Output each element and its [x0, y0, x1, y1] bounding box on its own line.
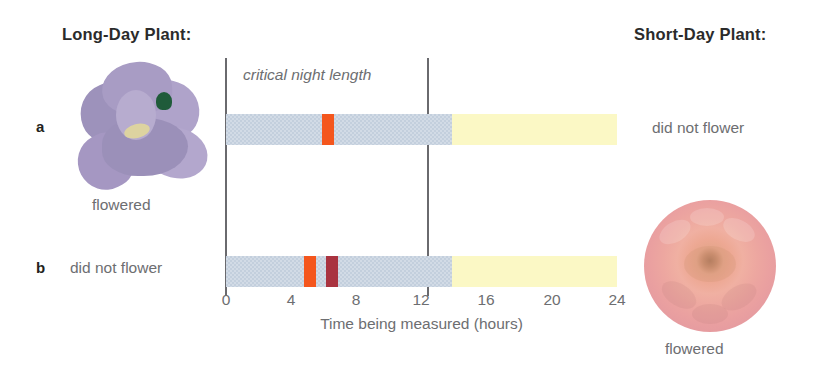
x-tick-24: 24 [602, 291, 632, 309]
x-tick-0: 0 [211, 291, 241, 309]
timeline-bar-a [226, 114, 617, 145]
x-tick-20: 20 [537, 291, 567, 309]
chrysanthemum-petal-shadow [692, 304, 728, 324]
day-segment-a [452, 114, 617, 145]
critical-night-length-label: critical night length [243, 66, 371, 84]
row-b-left-result: did not flower [70, 259, 162, 277]
light-flash-b-2 [326, 256, 338, 287]
row-letter-b: b [36, 259, 45, 276]
chrysanthemum-flower-image [644, 200, 776, 332]
x-tick-12: 12 [406, 291, 436, 309]
chrysanthemum-caption: flowered [665, 340, 724, 358]
light-flash-a-1 [322, 114, 334, 145]
x-axis-title: Time being measured (hours) [226, 315, 617, 333]
figure-photoperiodism-diagram: Long-Day Plant: Short-Day Plant: a b flo… [0, 0, 831, 373]
day-segment-b [452, 256, 617, 287]
short-day-plant-heading: Short-Day Plant: [634, 25, 766, 44]
night-segment-b [226, 256, 452, 287]
chrysanthemum-center [684, 246, 736, 282]
long-day-plant-heading: Long-Day Plant: [62, 25, 192, 44]
iris-caption: flowered [92, 196, 151, 214]
iris-flower-image [72, 62, 214, 194]
x-tick-16: 16 [471, 291, 501, 309]
night-segment-a [226, 114, 452, 145]
timeline-bar-b [226, 256, 617, 287]
row-letter-a: a [36, 118, 44, 135]
chrysanthemum-petal [690, 208, 724, 226]
light-flash-b-1 [304, 256, 316, 287]
x-tick-4: 4 [276, 291, 306, 309]
x-tick-8: 8 [341, 291, 371, 309]
row-a-right-result: did not flower [652, 119, 744, 137]
iris-center-mark [156, 92, 172, 110]
